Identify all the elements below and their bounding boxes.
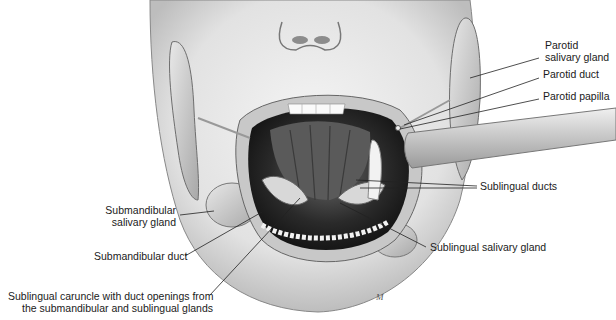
label-line: Parotid (545, 39, 609, 51)
molars-right (368, 140, 381, 200)
label-sublingual-ducts: Sublingual ducts (480, 180, 557, 192)
label-line: Sublingual caruncle with duct openings f… (8, 290, 213, 302)
artist-signature: M (375, 292, 384, 302)
label-parotid-papilla: Parotid papilla (543, 90, 610, 102)
parotid-papilla (396, 126, 401, 131)
anatomy-illustration: M (0, 0, 616, 320)
label-sublingual-salivary-gland: Sublingual salivary gland (430, 241, 546, 253)
label-line: Submandibular (96, 204, 176, 216)
label-submandibular-salivary-gland: Submandibular salivary gland (96, 204, 176, 228)
label-line: salivary gland (96, 216, 176, 228)
label-submandibular-duct: Submandibular duct (94, 250, 187, 262)
label-line: the submandibular and sublingual glands (8, 302, 213, 314)
label-parotid-salivary-gland: Parotid salivary gland (545, 39, 609, 63)
label-line: salivary gland (545, 51, 609, 63)
label-sublingual-caruncle: Sublingual caruncle with duct openings f… (8, 290, 213, 314)
label-parotid-duct: Parotid duct (543, 68, 599, 80)
upper-teeth (288, 104, 345, 114)
